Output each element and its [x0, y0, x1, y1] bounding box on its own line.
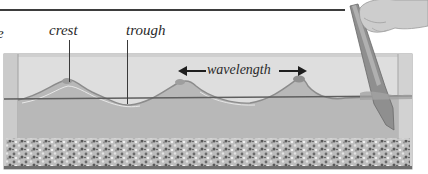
hand	[359, 0, 428, 32]
crest-leader-line	[69, 40, 70, 82]
wavelength-label: wavelength	[207, 63, 271, 77]
wavelength-arrow-right	[279, 70, 301, 72]
arrow-left-icon	[178, 66, 187, 76]
cut-off-label: e	[0, 26, 4, 41]
gravel-bed	[6, 138, 410, 166]
arrow-right-icon	[298, 66, 307, 76]
top-rule	[0, 9, 345, 11]
trough-label: trough	[126, 23, 165, 38]
wavelength-arrow-left	[184, 70, 206, 72]
trough-leader-line	[127, 40, 128, 104]
crest-label: crest	[49, 23, 78, 38]
wave-tank-figure: e crest trough wavelength	[0, 0, 428, 174]
